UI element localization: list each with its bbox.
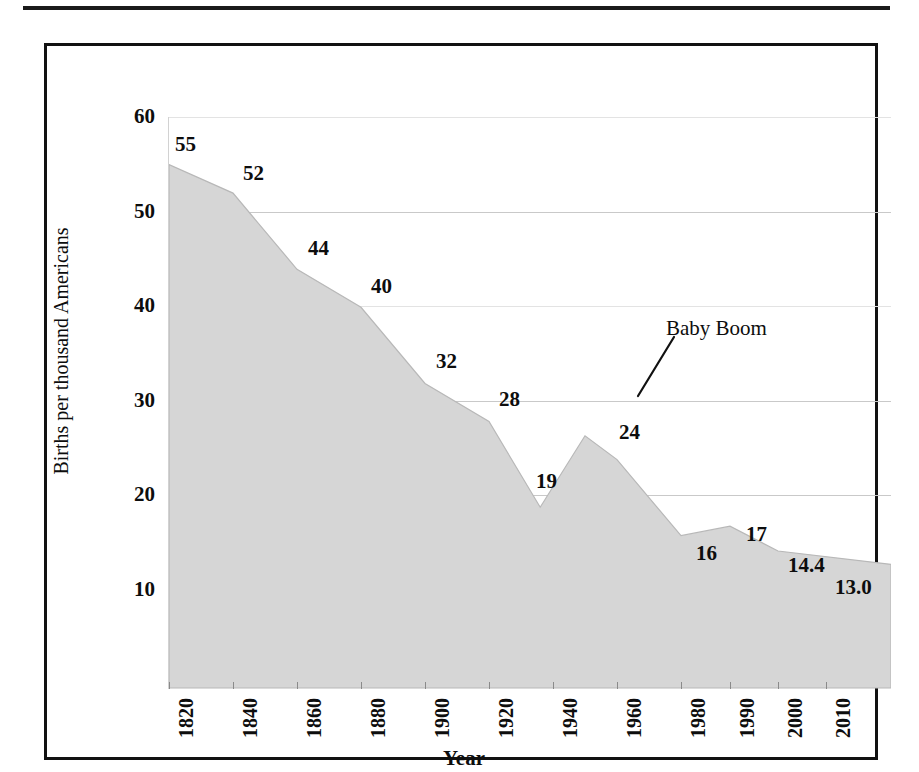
data-label-1980: 16: [696, 543, 717, 564]
x-tick-label-1990: 1990: [737, 698, 757, 738]
data-label-1920: 28: [499, 389, 520, 410]
y-tick-label-60: 60: [109, 106, 155, 127]
x-tick-label-1960: 1960: [624, 698, 644, 738]
annotation-baby-boom: Baby Boom: [666, 318, 767, 339]
x-tick-label-1940: 1940: [560, 698, 580, 738]
x-tick-label-2000: 2000: [785, 698, 805, 738]
data-label-1860: 44: [308, 238, 329, 259]
x-tick-mark-2000: [778, 682, 779, 689]
x-tick-label-2010: 2010: [833, 698, 853, 738]
x-tick-label-1860: 1860: [304, 698, 324, 738]
x-tick-mark-1880: [361, 682, 362, 689]
data-label-1960: 24: [619, 422, 640, 443]
figure-frame: 60 50 40 30 20 10 1820 1840 1860 1880 19…: [44, 43, 878, 760]
data-label-2010: 13.0: [835, 577, 872, 598]
x-tick-label-1980: 1980: [688, 698, 708, 738]
x-tick-mark-2010: [826, 682, 827, 689]
page-top-rule: [23, 6, 890, 10]
x-tick-mark-1860: [297, 682, 298, 689]
y-tick-label-50: 50: [109, 201, 155, 222]
data-label-1840: 52: [243, 163, 264, 184]
x-tick-mark-1920: [489, 682, 490, 689]
y-axis-title: Births per thousand Americans: [51, 141, 71, 561]
figure-root: 60 50 40 30 20 10 1820 1840 1860 1880 19…: [0, 0, 919, 772]
x-tick-mark-1990: [730, 682, 731, 689]
x-tick-mark-1960: [617, 682, 618, 689]
y-tick-label-10: 10: [109, 579, 155, 600]
x-tick-mark-1820: [169, 682, 170, 689]
y-tick-label-40: 40: [109, 295, 155, 316]
x-tick-label-1920: 1920: [496, 698, 516, 738]
data-label-2000: 14.4: [788, 555, 825, 576]
data-label-1900: 32: [436, 351, 457, 372]
x-tick-mark-1900: [425, 682, 426, 689]
x-tick-mark-1840: [233, 682, 234, 689]
data-label-1990: 17: [746, 524, 767, 545]
x-tick-mark-1980: [681, 682, 682, 689]
y-tick-label-30: 30: [109, 390, 155, 411]
data-label-1880: 40: [371, 276, 392, 297]
data-label-1940: 19: [536, 471, 557, 492]
x-axis-title: Year: [47, 746, 881, 771]
x-tick-label-1820: 1820: [176, 698, 196, 738]
birth-rate-area-series: [169, 117, 891, 689]
x-tick-label-1900: 1900: [432, 698, 452, 738]
x-tick-label-1880: 1880: [368, 698, 388, 738]
x-tick-mark-1940: [553, 682, 554, 689]
x-tick-label-1840: 1840: [240, 698, 260, 738]
data-label-1820: 55: [175, 134, 196, 155]
y-tick-label-20: 20: [109, 484, 155, 505]
